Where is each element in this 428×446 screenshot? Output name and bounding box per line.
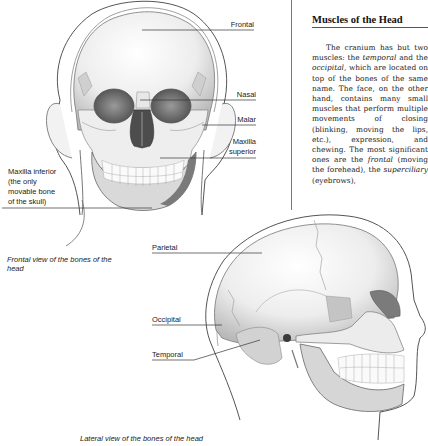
label-parietal: Parietal: [152, 243, 212, 253]
left-orbit: [94, 89, 134, 123]
label-nasal: Nasal: [220, 90, 256, 100]
label-temporal: Temporal: [152, 350, 212, 360]
frontal-neck-curve: [66, 200, 84, 246]
label-maxilla-superior-line2: superior: [210, 147, 256, 157]
article-text-run: , which are located on top of the bones …: [312, 63, 428, 164]
right-orbit: [151, 89, 191, 123]
article-text-run: and the: [396, 53, 428, 62]
label-maxilla-superior-line1: Maxilla: [210, 137, 256, 147]
label-maxilla-inferior-line3: movable bone: [8, 187, 88, 197]
left-ear: [47, 103, 73, 158]
article-term: frontal: [368, 155, 393, 164]
label-maxilla-inferior-line2: (the only: [8, 177, 88, 187]
lateral-temporal: [236, 327, 282, 364]
article-text-run: (eyebrows),: [312, 176, 356, 185]
article-term: temporal: [362, 53, 396, 62]
lateral-teeth: [338, 354, 404, 383]
label-occipital: Occipital: [152, 315, 212, 325]
article-heading: Muscles of the Head: [312, 14, 428, 28]
article-term: superciliary: [383, 165, 428, 174]
label-maxilla-inferior-line1: Maxilla inferior: [8, 167, 88, 177]
column-divider: [291, 0, 292, 210]
label-malar: Malar: [220, 115, 256, 125]
lateral-view-caption: Lateral view of the bones of the head: [80, 434, 280, 443]
label-maxilla-inferior-line4: of the skull): [8, 197, 88, 207]
label-frontal: Frontal: [210, 20, 254, 30]
frontal-view-caption: Frontal view of the bones of the head: [7, 255, 127, 273]
frontal-skull-illustration: [47, 1, 236, 246]
article-paragraph: The cranium has but two muscles: the tem…: [312, 43, 428, 186]
lateral-skull-illustration: [206, 215, 426, 440]
article-term: occipital: [312, 63, 344, 72]
